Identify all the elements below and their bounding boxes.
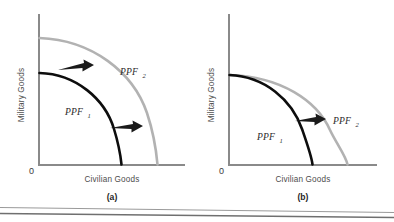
svg-text:PPF: PPF <box>64 106 83 117</box>
footer-divider <box>0 198 394 222</box>
x-axis-label-panel-b: Civilian Goods <box>276 175 331 184</box>
ppf2-label-panel-b: PPF 2 <box>332 115 360 128</box>
panel-b: PPF 2 PPF 1 0 Civilian Goods Military Go… <box>197 0 394 205</box>
svg-text:1: 1 <box>280 137 283 144</box>
origin-label-panel-b: 0 <box>219 166 224 176</box>
panel-a: PPF 2 PPF 1 0 Civilian Goods Military Go… <box>0 0 197 205</box>
axes-panel-a <box>39 14 185 165</box>
origin-label-panel-a: 0 <box>29 166 34 176</box>
ppf1-curve-panel-a <box>40 73 122 165</box>
ppf2-curve-panel-b <box>230 75 348 165</box>
divider-line-lower <box>0 214 394 218</box>
ppf2-label-panel-a: PPF 2 <box>119 66 147 79</box>
divider-line-upper <box>0 208 394 213</box>
ppf1-label-panel-b: PPF 1 <box>256 131 283 144</box>
svg-text:1: 1 <box>88 112 91 119</box>
y-axis-label-panel-b: Military Goods <box>207 68 216 122</box>
ppf1-curve-panel-b <box>230 75 313 165</box>
svg-text:PPF: PPF <box>256 131 275 142</box>
svg-text:PPF: PPF <box>332 115 351 126</box>
y-axis-label-panel-a: Military Goods <box>17 68 26 122</box>
x-axis-label-panel-a: Civilian Goods <box>85 175 140 184</box>
upper-shift-arrow-panel-a <box>58 60 94 72</box>
ppf-figure: PPF 2 PPF 1 0 Civilian Goods Military Go… <box>0 0 394 222</box>
svg-text:2: 2 <box>143 72 147 79</box>
svg-text:2: 2 <box>356 121 360 128</box>
axes-panel-b <box>229 14 377 165</box>
svg-text:PPF: PPF <box>119 66 138 77</box>
ppf1-label-panel-a: PPF 1 <box>64 106 91 119</box>
